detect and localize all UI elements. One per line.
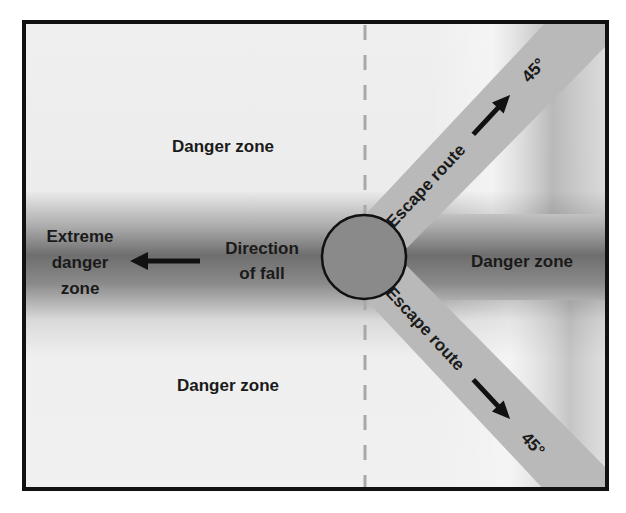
direction-of-fall-line2: of fall xyxy=(239,264,284,283)
danger-zone-bottom-label: Danger zone xyxy=(177,376,279,395)
extreme-danger-zone-line2: danger xyxy=(52,253,109,272)
danger-zone-top-label: Danger zone xyxy=(172,137,274,156)
direction-of-fall-line1: Direction xyxy=(225,239,299,258)
felling-diagram: Danger zone Danger zone Danger zone Extr… xyxy=(0,0,626,513)
extreme-danger-zone-line3: zone xyxy=(61,279,100,298)
danger-zone-right-label: Danger zone xyxy=(471,252,573,271)
extreme-danger-zone-line1: Extreme xyxy=(46,227,113,246)
